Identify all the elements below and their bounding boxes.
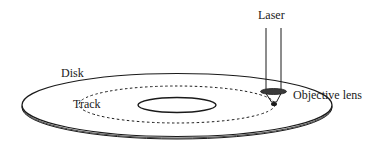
disk xyxy=(22,74,332,140)
focal-spot xyxy=(271,102,277,106)
objective-lens-label: Objective lens xyxy=(293,88,362,102)
disk-label: Disk xyxy=(61,66,84,80)
laser-label: Laser xyxy=(258,8,285,22)
disk-surface xyxy=(22,74,332,137)
track-label: Track xyxy=(73,97,101,111)
optical-disk-diagram: Laser Disk Track Objective lens xyxy=(0,0,388,146)
